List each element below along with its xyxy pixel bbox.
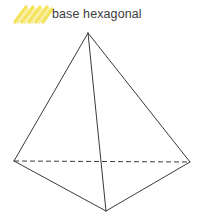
edge-left-right-hidden [14, 161, 190, 162]
edge-apex-left [14, 33, 88, 161]
figure-canvas: base hexagonal [0, 0, 206, 224]
pyramid-figure [0, 0, 206, 224]
pyramid-hidden-edges [14, 161, 190, 162]
pyramid-solid-edges [14, 33, 190, 211]
edge-apex-front [88, 33, 106, 211]
edge-left-front [14, 161, 106, 211]
edge-right-front [106, 162, 190, 211]
edge-apex-right [88, 33, 190, 162]
